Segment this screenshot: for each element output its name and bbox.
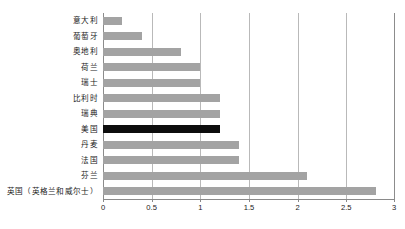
x-tick-label-3: 3 (392, 203, 396, 212)
bar-row (103, 29, 395, 45)
bar-belgium (103, 94, 220, 102)
category-label-netherlands: 荷兰 (81, 60, 98, 76)
category-label-portugal: 葡萄牙 (73, 29, 98, 45)
category-label-italy: 意大利 (73, 13, 98, 29)
x-tick-label-2: 2 (295, 203, 299, 212)
bar-france (103, 156, 239, 164)
bar-row (103, 137, 395, 153)
tick-mark-0 (103, 199, 104, 202)
category-label-united-states: 美国 (81, 122, 98, 138)
tick-mark-1 (200, 199, 201, 202)
x-tick-label-1-5: 1.5 (244, 203, 255, 212)
bar-portugal (103, 32, 142, 40)
bar-italy (103, 17, 122, 25)
bar-finland (103, 172, 307, 180)
bar-denmark (103, 141, 239, 149)
bar-row (103, 122, 395, 138)
bar-row (103, 91, 395, 107)
tick-mark-3 (394, 199, 395, 202)
bar-chart: 意大利 葡萄牙 奥地利 荷兰 瑞士 比利时 瑞典 美国 丹麦 法国 芬兰 英国（… (0, 0, 405, 229)
bar-row (103, 13, 395, 29)
bar-row (103, 153, 395, 169)
tick-mark-0-5 (152, 199, 153, 202)
tick-mark-2-5 (346, 199, 347, 202)
plot-area (103, 13, 395, 200)
bar-row (103, 168, 395, 184)
bar-row (103, 106, 395, 122)
bar-sweden (103, 110, 220, 118)
bar-row (103, 44, 395, 60)
bar-austria (103, 48, 181, 56)
category-label-finland: 芬兰 (81, 168, 98, 184)
bar-netherlands (103, 63, 200, 71)
tick-mark-2 (298, 199, 299, 202)
category-label-austria: 奥地利 (73, 44, 98, 60)
bar-united-kingdom (103, 187, 376, 195)
category-label-united-kingdom: 英国（英格兰和威尔士） (7, 184, 98, 200)
x-tick-label-2-5: 2.5 (341, 203, 352, 212)
bar-row (103, 184, 395, 200)
bar-row (103, 75, 395, 91)
category-label-switzerland: 瑞士 (81, 75, 98, 91)
bar-row (103, 60, 395, 76)
category-label-belgium: 比利时 (73, 91, 98, 107)
category-label-denmark: 丹麦 (81, 137, 98, 153)
bar-switzerland (103, 79, 200, 87)
category-label-sweden: 瑞典 (81, 106, 98, 122)
category-label-france: 法国 (81, 153, 98, 169)
x-tick-label-0: 0 (101, 203, 105, 212)
x-tick-label-1: 1 (198, 203, 202, 212)
x-tick-label-0-5: 0.5 (146, 203, 157, 212)
bar-united-states (103, 125, 220, 133)
tick-mark-1-5 (249, 199, 250, 202)
